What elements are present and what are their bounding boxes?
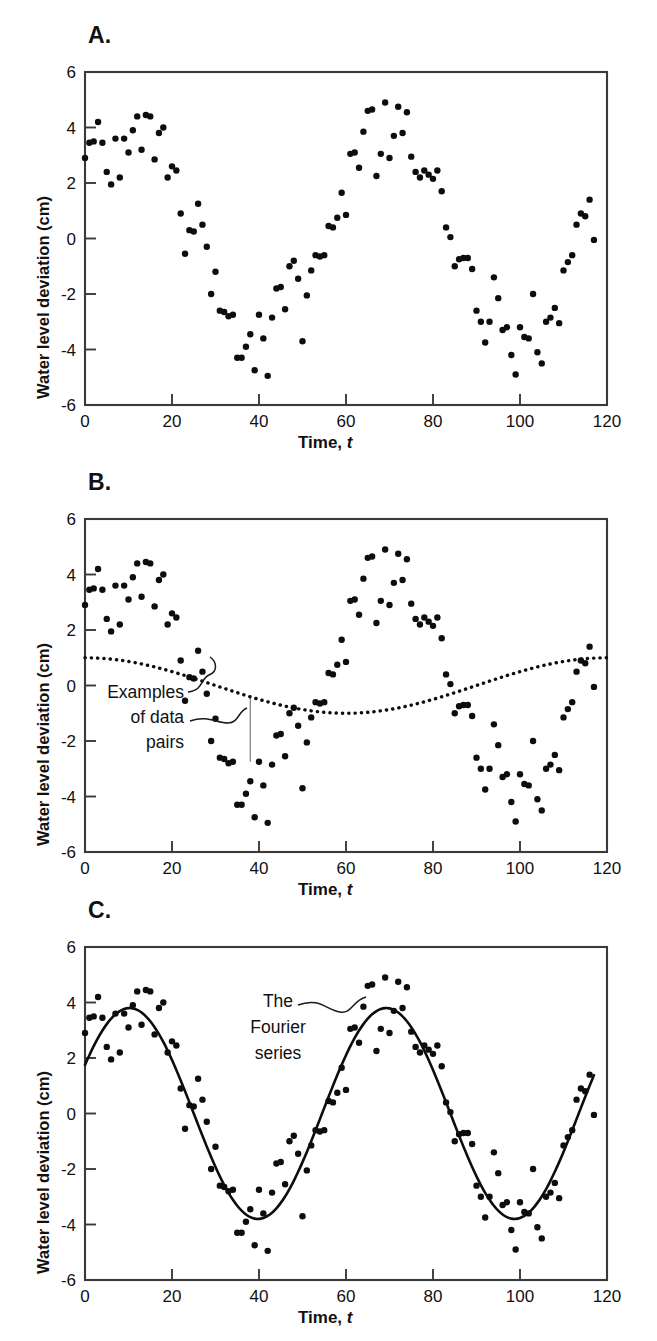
data-point [478,1194,484,1200]
data-point [121,135,127,141]
x-tick-label: 0 [80,412,89,431]
plot-area-b: 6420-2-4-6020406080100120Examplesof data… [0,447,657,894]
data-point [230,1187,236,1193]
data-point [517,1199,523,1205]
data-point [591,1112,597,1118]
data-point [417,174,423,180]
data-point [321,699,327,705]
data-point [560,267,566,273]
data-point [156,1005,162,1011]
annotation-line: pairs [146,732,184,752]
data-point [164,174,170,180]
data-point [265,1248,271,1254]
data-point [82,1030,88,1036]
data-point [238,802,244,808]
data-point [569,699,575,705]
data-point [447,234,453,240]
data-point [99,1015,105,1021]
data-point [382,974,388,980]
data-point [504,771,510,777]
data-point [356,1040,362,1046]
data-point [386,155,392,161]
data-point [238,1230,244,1236]
data-point [99,587,105,593]
data-point [512,1246,518,1252]
data-point [530,738,536,744]
data-point [534,1224,540,1230]
x-tick-label: 80 [424,412,443,431]
data-point [369,106,375,112]
x-tick-label: 40 [250,1287,269,1306]
data-point [334,1089,340,1095]
data-point [391,580,397,586]
data-point [508,1227,514,1233]
data-point [539,1235,545,1241]
x-tick-label: 20 [163,1287,182,1306]
data-point [243,791,249,797]
data-point [360,1003,366,1009]
data-point [256,312,262,318]
data-point [469,266,475,272]
data-point [208,738,214,744]
data-point [108,628,114,634]
data-point [151,156,157,162]
data-point [278,284,284,290]
data-point [439,635,445,641]
data-point [560,714,566,720]
data-point [278,731,284,737]
data-point [386,602,392,608]
x-tick-label: 100 [506,412,534,431]
data-point [386,1030,392,1036]
data-point [104,169,110,175]
data-point [343,212,349,218]
data-point [117,1049,123,1055]
data-point [269,761,275,767]
data-point [147,988,153,994]
data-point [286,710,292,716]
data-point [204,244,210,250]
data-point [334,214,340,220]
data-point [343,659,349,665]
y-tick-label: 4 [67,994,76,1013]
data-point [282,306,288,312]
data-point [304,739,310,745]
data-point [526,335,532,341]
data-point [517,771,523,777]
data-point [182,1126,188,1132]
data-point [404,109,410,115]
data-point [378,1026,384,1032]
data-point [334,661,340,667]
data-point [230,312,236,318]
data-point [160,999,166,1005]
data-point [530,1166,536,1172]
data-point [517,324,523,330]
data-point [134,988,140,994]
data-point [173,614,179,620]
data-point [173,1042,179,1048]
data-point [256,1187,262,1193]
data-point [478,319,484,325]
data-point [465,255,471,261]
data-point [482,339,488,345]
data-point [395,550,401,556]
data-point [378,151,384,157]
data-point [452,1138,458,1144]
annotation-line: Examples [107,682,184,702]
data-point [360,128,366,134]
data-point [408,153,414,159]
annotation-line: Fourier [250,1017,306,1037]
data-point [552,1180,558,1186]
plot-area-a: 6420-2-4-6020406080100120 [0,0,657,447]
data-point [399,577,405,583]
data-point [199,221,205,227]
data-point [352,149,358,155]
panel-c: C.Water level deviation (cm)Time, t6420-… [0,875,657,1322]
annotation-leader [298,997,366,1012]
data-point [134,560,140,566]
data-point [539,807,545,813]
data-point [373,620,379,626]
data-point [82,155,88,161]
data-point [473,307,479,313]
data-point [269,1189,275,1195]
y-tick-label: 2 [67,1049,76,1068]
